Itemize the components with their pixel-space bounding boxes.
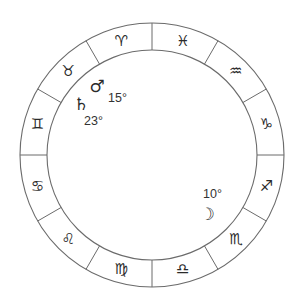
saturn-icon: ♄ <box>73 94 88 114</box>
sign-divider <box>86 41 100 64</box>
zodiac-wheel: ♈ ♉ ♊ ♋ ♌ ♍ ♎ ♏ ♐ ♑ ♒ ♓ ♂ 15° ♄ 23° ☽ 10… <box>0 0 300 307</box>
outer-ring <box>20 23 284 287</box>
inner-ring <box>47 50 257 260</box>
gemini-icon: ♊ <box>31 115 44 133</box>
moon-degree-label: 10° <box>203 187 222 201</box>
sign-divider <box>86 246 100 269</box>
scorpio-icon: ♏ <box>229 230 243 248</box>
sign-dividers <box>20 23 284 287</box>
mars-icon: ♂ <box>89 76 104 96</box>
sign-divider <box>205 246 219 269</box>
taurus-icon: ♉ <box>61 62 74 80</box>
moon-icon: ☽ <box>199 204 214 224</box>
cancer-icon: ♋ <box>31 177 44 195</box>
capricorn-icon: ♑ <box>260 115 273 133</box>
virgo-icon: ♍ <box>115 260 128 278</box>
sign-divider <box>38 89 61 103</box>
sagittarius-icon: ♐ <box>260 177 273 195</box>
pisces-icon: ♓ <box>176 32 189 50</box>
aquarius-icon: ♒ <box>229 62 242 80</box>
sign-divider <box>38 208 61 222</box>
aries-icon: ♈ <box>115 32 128 50</box>
leo-icon: ♌ <box>61 230 74 248</box>
libra-icon: ♎ <box>176 260 189 278</box>
planets: ♂ 15° ♄ 23° ☽ 10° <box>73 76 222 224</box>
zodiac-signs: ♈ ♉ ♊ ♋ ♌ ♍ ♎ ♏ ♐ ♑ ♒ ♓ <box>31 32 273 279</box>
sign-divider <box>243 208 266 222</box>
sign-divider <box>243 89 266 103</box>
sign-divider <box>205 41 219 64</box>
mars-degree-label: 15° <box>108 91 127 105</box>
saturn-degree-label: 23° <box>84 114 103 128</box>
